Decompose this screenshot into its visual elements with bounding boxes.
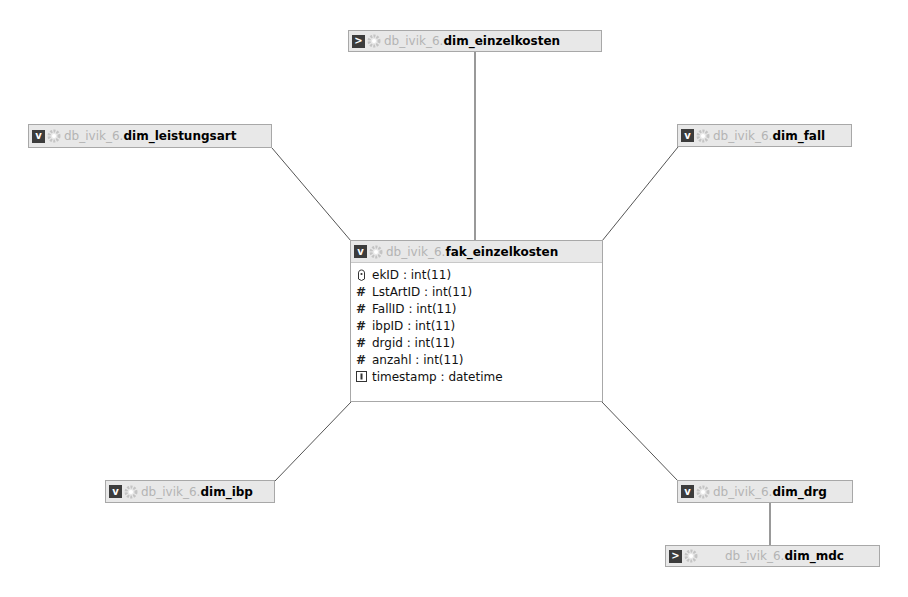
table-header[interactable]: v db_ivik_6.fak_einzelkosten — [351, 241, 602, 263]
table-dim-einzelkosten[interactable]: > db_ivik_6.dim_einzelkosten — [348, 30, 602, 52]
key-icon — [355, 269, 367, 281]
field-row[interactable]: # anzahl : int(11) — [355, 351, 602, 368]
gear-icon — [696, 485, 710, 499]
collapse-icon[interactable]: v — [109, 485, 122, 498]
table-header[interactable]: v db_ivik_6.dim_ibp — [106, 481, 274, 502]
table-dim-fall[interactable]: v db_ivik_6.dim_fall — [677, 124, 852, 147]
gear-icon — [369, 245, 383, 259]
field-row[interactable]: # drgid : int(11) — [355, 334, 602, 351]
table-name: fak_einzelkosten — [445, 245, 558, 259]
collapse-icon[interactable]: v — [32, 130, 45, 143]
gear-icon — [124, 485, 138, 499]
gear-icon — [367, 34, 381, 48]
table-name: dim_einzelkosten — [443, 34, 560, 48]
field-row[interactable]: # FallID : int(11) — [355, 300, 602, 317]
timestamp-icon — [355, 371, 367, 382]
expand-icon[interactable]: > — [352, 35, 365, 48]
expand-icon[interactable]: > — [669, 550, 682, 563]
field-row[interactable]: timestamp : datetime — [355, 368, 602, 385]
table-fak-einzelkosten[interactable]: v db_ivik_6.fak_einzelkosten ekID : int(… — [350, 240, 603, 402]
schema-name: db_ivik_6 — [713, 129, 769, 143]
table-header[interactable]: v db_ivik_6.dim_leistungsart — [29, 125, 271, 147]
table-name: dim_ibp — [200, 485, 253, 499]
table-header[interactable]: > db_ivik_6.dim_mdc — [666, 546, 879, 566]
table-name: dim_drg — [772, 485, 826, 499]
field-row[interactable]: # ibpID : int(11) — [355, 317, 602, 334]
table-dim-mdc[interactable]: > db_ivik_6.dim_mdc — [665, 545, 880, 567]
field-row[interactable]: ekID : int(11) — [355, 266, 602, 283]
collapse-icon[interactable]: v — [681, 485, 694, 498]
field-list: ekID : int(11) # LstArtID : int(11) # Fa… — [351, 263, 602, 389]
gear-icon — [684, 549, 698, 563]
table-dim-leistungsart[interactable]: v db_ivik_6.dim_leistungsart — [28, 124, 272, 148]
table-dim-drg[interactable]: v db_ivik_6.dim_drg — [677, 480, 853, 503]
gear-icon — [696, 129, 710, 143]
link-leistungsart — [272, 148, 351, 241]
table-header[interactable]: > db_ivik_6.dim_einzelkosten — [349, 31, 601, 51]
table-header[interactable]: v db_ivik_6.dim_drg — [678, 481, 852, 502]
hash-icon: # — [355, 319, 367, 333]
collapse-icon[interactable]: v — [354, 245, 367, 258]
schema-name: db_ivik_6 — [725, 549, 781, 563]
field-row[interactable]: # LstArtID : int(11) — [355, 283, 602, 300]
link-fall — [602, 147, 678, 241]
table-name: dim_mdc — [784, 549, 843, 563]
hash-icon: # — [355, 336, 367, 350]
table-name: dim_leistungsart — [123, 129, 236, 143]
schema-name: db_ivik_6 — [384, 34, 440, 48]
schema-name: db_ivik_6 — [386, 245, 442, 259]
table-name: dim_fall — [772, 129, 825, 143]
schema-name: db_ivik_6 — [141, 485, 197, 499]
gear-icon — [47, 129, 61, 143]
link-drg — [602, 402, 678, 481]
schema-name: db_ivik_6 — [713, 485, 769, 499]
hash-icon: # — [355, 285, 367, 299]
schema-name: db_ivik_6 — [64, 129, 120, 143]
collapse-icon[interactable]: v — [681, 129, 694, 142]
hash-icon: # — [355, 353, 367, 367]
link-ibp — [275, 402, 351, 481]
table-header[interactable]: v db_ivik_6.dim_fall — [678, 125, 851, 146]
table-dim-ibp[interactable]: v db_ivik_6.dim_ibp — [105, 480, 275, 503]
hash-icon: # — [355, 302, 367, 316]
